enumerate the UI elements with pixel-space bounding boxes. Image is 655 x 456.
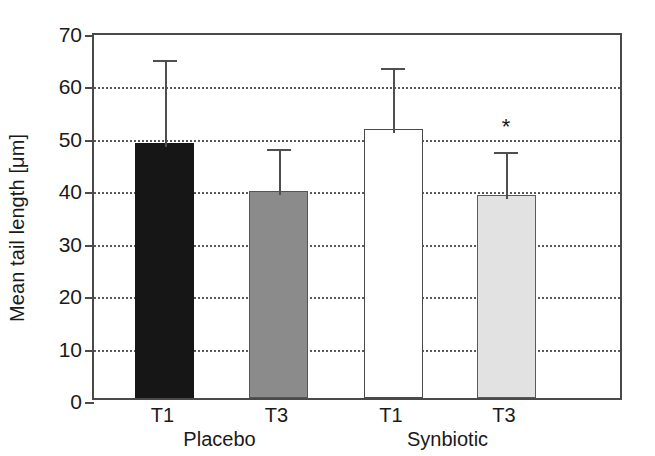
error-bar-stem-synbiotic-t3 [506,152,508,199]
figure-bar-chart: Mean tail length [μm] 010203040506070 * … [0,0,655,456]
y-tick-label-30: 30 [59,233,82,257]
error-bar-cap-placebo-t1 [153,60,177,62]
y-axis-title: Mean tail length [μm] [0,0,34,456]
y-tick-label-0: 0 [70,390,82,414]
error-bar-cap-synbiotic-t3 [494,152,518,154]
error-bar-stem-synbiotic-t1 [393,68,395,133]
bar-placebo-t1 [135,143,194,398]
y-tick-label-60: 60 [59,75,82,99]
x-tick-label-synbiotic-t1: T1 [379,404,402,427]
y-tick-label-10: 10 [59,338,82,362]
y-tick-label-40: 40 [59,180,82,204]
bar-synbiotic-t3 [477,195,536,398]
plot-area: 010203040506070 * [92,33,622,400]
group-label-synbiotic: Synbiotic [407,428,488,451]
y-tick-mark-0 [85,402,94,404]
group-label-placebo: Placebo [183,428,255,451]
error-bar-cap-placebo-t3 [267,149,291,151]
x-tick-label-placebo-t1: T1 [151,404,174,427]
y-tick-label-20: 20 [59,285,82,309]
y-tick-mark-60 [85,87,94,89]
error-bar-cap-synbiotic-t1 [381,68,405,70]
bar-placebo-t3 [249,191,308,398]
y-tick-mark-40 [85,192,94,194]
gridline-50 [94,140,620,142]
gridline-60 [94,87,620,89]
error-bar-stem-placebo-t1 [165,60,167,147]
significance-marker: * [502,116,511,138]
error-bar-stem-placebo-t3 [279,149,281,195]
x-tick-label-placebo-t3: T3 [265,404,288,427]
bar-synbiotic-t1 [364,129,423,398]
y-tick-mark-20 [85,297,94,299]
y-tick-mark-50 [85,140,94,142]
y-tick-label-50: 50 [59,128,82,152]
x-tick-label-synbiotic-t3: T3 [492,404,515,427]
y-tick-mark-70 [85,35,94,37]
y-tick-label-70: 70 [59,23,82,47]
y-tick-mark-10 [85,350,94,352]
y-tick-mark-30 [85,245,94,247]
